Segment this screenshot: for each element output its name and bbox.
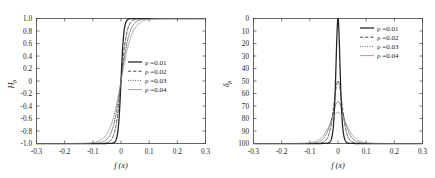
left-x-axis-label: f (x): [114, 161, 128, 170]
right-x-tick-label: -0.2: [276, 148, 288, 156]
left-x-tick-label: -0.2: [59, 148, 71, 156]
right-legend: ρ =0.01ρ =0.02ρ =0.03ρ =0.04: [360, 25, 399, 61]
right-y-tick-label: 90: [242, 128, 250, 136]
left-curve-rho-0.04: [37, 19, 206, 144]
right-x-axis-label: f (x): [331, 161, 345, 170]
left-y-tick-label: -0.8: [21, 128, 33, 136]
left-y-tick-label: -0.4: [21, 103, 33, 111]
right-plot-svg: 1009080706050403020100 -0.3-0.2-0.100.10…: [217, 0, 434, 178]
right-legend-label-2: ρ =0.03: [377, 43, 399, 51]
left-plot-svg: 1.00.80.60.40.20-0.2-0.4-0.6-0.8-1.0 -0.…: [0, 0, 217, 178]
right-legend-label-1: ρ =0.02: [377, 34, 399, 42]
right-x-tick-label: -0.3: [248, 148, 260, 156]
left-legend-label-1: ρ =0.02: [145, 68, 167, 76]
right-y-tick-label: 80: [242, 115, 250, 123]
right-y-tick-label: 40: [242, 65, 250, 73]
right-y-axis-label: δρ: [222, 80, 232, 87]
right-y-tick-label: 50: [242, 78, 250, 86]
svg-text:Hρ: Hρ: [7, 79, 17, 89]
right-x-tick-label: -0.1: [304, 148, 316, 156]
right-curve-rho-0.04: [254, 112, 423, 143]
right-y-tick-label: 70: [242, 103, 250, 111]
right-x-tick-group: -0.3-0.2-0.100.10.20.3: [248, 19, 428, 156]
left-x-tick-label: 0: [119, 148, 123, 156]
svg-text:δρ: δρ: [222, 80, 232, 87]
left-legend-label-3: ρ =0.04: [145, 86, 167, 94]
left-x-tick-label: 0.1: [145, 148, 154, 156]
right-x-tick-label: 0.2: [390, 148, 399, 156]
left-y-tick-label: 0.6: [23, 40, 32, 48]
left-y-tick-label: 0.4: [23, 53, 32, 61]
right-y-tick-label: 0: [245, 15, 249, 23]
left-x-tick-label: 0.3: [201, 148, 210, 156]
left-x-tick-label: 0.2: [173, 148, 182, 156]
panel-delta: 1009080706050403020100 -0.3-0.2-0.100.10…: [217, 0, 434, 178]
left-y-tick-label: 0.2: [23, 65, 32, 73]
left-legend: ρ =0.01ρ =0.02ρ =0.03ρ =0.04: [128, 59, 167, 95]
panel-heaviside: 1.00.80.60.40.20-0.2-0.4-0.6-0.8-1.0 -0.…: [0, 0, 217, 178]
left-x-tick-label: -0.3: [31, 148, 43, 156]
right-legend-label-3: ρ =0.04: [377, 52, 399, 60]
left-legend-label-2: ρ =0.03: [145, 77, 167, 85]
right-y-tick-label: 60: [242, 90, 250, 98]
left-y-axis-label: Hρ: [7, 79, 17, 89]
left-legend-label-0: ρ =0.01: [145, 59, 167, 67]
left-ylabel-sub: ρ: [11, 79, 17, 83]
right-ylabel-sub: ρ: [226, 80, 232, 84]
left-y-tick-label: -0.6: [21, 115, 33, 123]
left-y-tick-label: 0: [28, 78, 32, 86]
left-x-tick-label: -0.1: [87, 148, 99, 156]
left-y-tick-label: 0.8: [23, 28, 32, 36]
right-y-tick-label: 20: [242, 40, 250, 48]
right-x-tick-label: 0: [336, 148, 340, 156]
right-x-tick-label: 0.1: [362, 148, 371, 156]
left-y-tick-label: 1.0: [23, 15, 32, 23]
two-panel-figure: 1.00.80.60.40.20-0.2-0.4-0.6-0.8-1.0 -0.…: [0, 0, 435, 178]
right-legend-label-0: ρ =0.01: [377, 25, 399, 33]
left-curve-group: [37, 19, 206, 144]
right-y-tick-label: 30: [242, 53, 250, 61]
right-curve-rho-0.03: [254, 102, 423, 144]
right-y-tick-label: 10: [242, 28, 250, 36]
left-y-tick-label: -0.2: [21, 90, 33, 98]
right-x-tick-label: 0.3: [418, 148, 427, 156]
